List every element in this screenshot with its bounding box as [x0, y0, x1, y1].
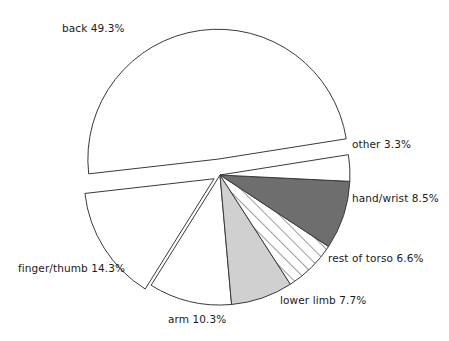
slice-label-arm: arm 10.3% [168, 313, 226, 325]
slice-label-finger-thumb: finger/thumb 14.3% [18, 262, 125, 274]
slice-label-lower-limb: lower limb 7.7% [280, 294, 366, 306]
pie-chart-canvas [0, 0, 449, 341]
pie-chart-figure: back 49.3% finger/thumb 14.3% arm 10.3% … [0, 0, 449, 341]
slice-label-rest-of-torso: rest of torso 6.6% [328, 252, 424, 264]
slice-label-hand-wrist: hand/wrist 8.5% [352, 192, 439, 204]
slice-label-back: back 49.3% [62, 22, 125, 34]
slice-label-other: other 3.3% [352, 138, 411, 150]
pie-slice-back[interactable] [88, 29, 346, 174]
